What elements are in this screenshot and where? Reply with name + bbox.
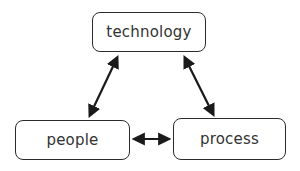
node-process: process bbox=[173, 118, 286, 160]
node-label: people bbox=[46, 131, 98, 149]
diagram-canvas: technology people process bbox=[0, 0, 300, 171]
arrow-technology-process bbox=[185, 58, 213, 114]
node-label: technology bbox=[106, 23, 191, 41]
node-technology: technology bbox=[92, 12, 206, 52]
node-label: process bbox=[200, 130, 259, 148]
arrow-technology-people bbox=[90, 58, 117, 115]
node-people: people bbox=[15, 120, 130, 160]
